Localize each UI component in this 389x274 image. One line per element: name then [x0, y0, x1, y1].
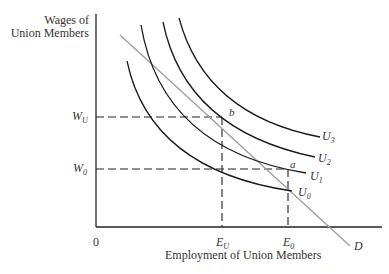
- indifference-curve-u1: [141, 25, 306, 173]
- indifference-curve-u2: [163, 22, 315, 157]
- curve-label-u0: U0: [298, 186, 311, 203]
- demand-curve: [120, 35, 350, 246]
- curve-label-u2: U2: [318, 152, 331, 169]
- point-label-b: b: [229, 106, 235, 119]
- indifference-curve-u3: [179, 18, 320, 137]
- employment-label-eu: EU: [216, 236, 229, 253]
- curve-label-u1: U1: [310, 170, 323, 187]
- wage-label-wu: WU: [72, 110, 88, 127]
- y-axis-label-line2: Union Members: [11, 27, 89, 40]
- origin-label: 0: [93, 236, 99, 249]
- employment-label-e0: E0: [283, 236, 294, 253]
- curve-label-d: D: [354, 240, 363, 253]
- wage-label-w0: W0: [73, 162, 87, 179]
- y-axis-label: Wages of Union Members: [11, 14, 89, 40]
- curve-label-u3: U3: [322, 130, 335, 147]
- point-label-a: a: [290, 158, 296, 171]
- x-axis-label: Employment of Union Members: [165, 249, 321, 262]
- indifference-curve-u0: [127, 61, 292, 191]
